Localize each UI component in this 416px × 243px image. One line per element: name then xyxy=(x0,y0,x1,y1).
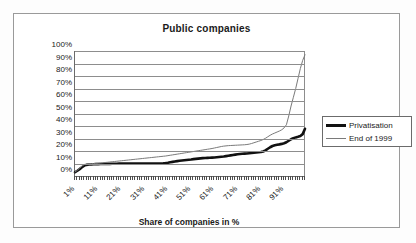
x-axis-tick-label: 11% xyxy=(76,184,99,207)
x-axis-tick-label: 81% xyxy=(239,184,262,207)
x-axis-tick-labels: 1%11%21%31%41%51%61%71%81%91% xyxy=(0,0,416,243)
x-axis-tick-label: 21% xyxy=(99,184,122,207)
x-axis-tick-label: 1% xyxy=(53,184,76,207)
chart-screenshot: Public companies Ownership stake C1 in %… xyxy=(0,0,416,243)
x-axis-tick-label: 41% xyxy=(146,184,169,207)
x-axis-tick-label: 61% xyxy=(192,184,215,207)
x-axis-tick-label: 31% xyxy=(123,184,146,207)
x-axis-tick-label: 71% xyxy=(215,184,238,207)
x-axis-tick-label: 91% xyxy=(262,184,285,207)
x-axis-tick-label: 51% xyxy=(169,184,192,207)
